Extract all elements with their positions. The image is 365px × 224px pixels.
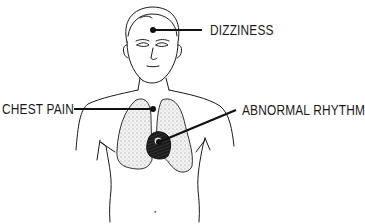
symptom-diagram: DIZZINESS CHEST PAIN ABNORMAL RHYTHM — [0, 0, 365, 224]
chest-pain-marker-dot — [150, 106, 156, 112]
torso-left — [101, 142, 111, 222]
neck-right — [166, 78, 169, 90]
eye-right — [156, 43, 168, 47]
dizziness-marker-dot — [150, 27, 156, 33]
torso-right — [198, 138, 205, 222]
mouth — [147, 66, 159, 67]
abnormal-rhythm-marker-dot — [156, 139, 162, 145]
eye-left — [137, 43, 149, 47]
nose — [151, 48, 157, 60]
neck-left — [138, 78, 140, 90]
label-chest-pain: CHEST PAIN — [2, 102, 74, 116]
label-dizziness: DIZZINESS — [210, 23, 274, 37]
label-abnormal-rhythm: ABNORMAL RHYTHM — [242, 103, 365, 117]
